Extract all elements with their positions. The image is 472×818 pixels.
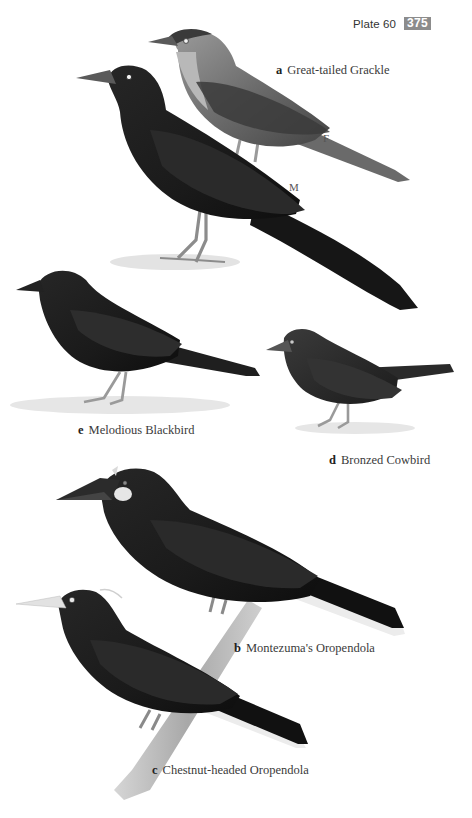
caption-name: Great-tailed Grackle [287,63,389,77]
field-guide-plate: Plate 60 375 [0,0,472,818]
caption-letter: c [152,763,158,777]
sex-label-female: F [323,132,329,144]
caption-letter: b [234,641,241,655]
caption-bronzed-cowbird: dBronzed Cowbird [329,453,430,468]
sex-label-male: M [289,181,299,193]
melodious-blackbird [10,271,260,414]
bird-illustrations [0,0,472,818]
caption-letter: d [329,453,336,467]
caption-name: Bronzed Cowbird [341,453,430,467]
caption-montezumas-oropendola: bMontezuma's Oropendola [234,641,375,656]
caption-melodious-blackbird: eMelodious Blackbird [78,423,194,438]
caption-chestnut-headed-oropendola: cChestnut-headed Oropendola [152,763,309,778]
chestnut-headed-oropendola [16,589,308,748]
caption-letter: e [78,423,84,437]
caption-name: Montezuma's Oropendola [246,641,375,655]
caption-letter: a [276,63,282,77]
bronzed-cowbird [266,329,454,434]
caption-great-tailed-grackle: aGreat-tailed Grackle [276,63,390,78]
caption-name: Melodious Blackbird [89,423,195,437]
caption-name: Chestnut-headed Oropendola [163,763,309,777]
